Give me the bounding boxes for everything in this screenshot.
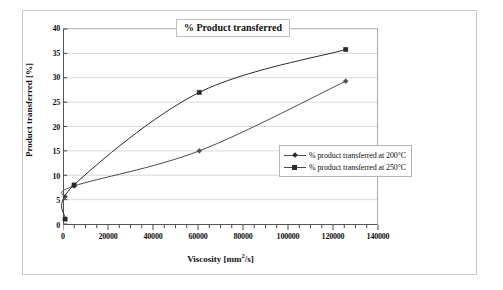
x-tick-label: 0 xyxy=(61,232,65,241)
y-tick-label: 5 xyxy=(56,196,60,205)
y-tick-label: 35 xyxy=(52,48,60,57)
x-tick-label: 60000 xyxy=(188,232,207,241)
x-tick-label: 120000 xyxy=(322,232,345,241)
data-point-marker xyxy=(197,90,201,94)
x-axis-title-base: Viscosity [mm xyxy=(187,254,241,264)
chart-legend: % product transferred at 200°C % product… xyxy=(279,145,412,177)
y-tick-label: 0 xyxy=(56,221,60,230)
x-tick-label: 80000 xyxy=(233,232,252,241)
x-axis-tick-labels: 020000400006000080000100000120000140000 xyxy=(63,232,378,246)
data-point-marker xyxy=(63,217,67,221)
data-point-marker xyxy=(344,47,348,51)
legend-entry-200c[interactable]: % product transferred at 200°C xyxy=(284,149,406,161)
data-point-marker xyxy=(343,79,348,84)
x-axis-title: Viscosity [mm2/s] xyxy=(63,252,378,264)
x-tick-label: 100000 xyxy=(277,232,300,241)
y-tick-label: 20 xyxy=(52,122,60,131)
legend-label-200c: % product transferred at 200°C xyxy=(309,151,406,160)
legend-entry-250c[interactable]: % product transferred at 250°C xyxy=(284,161,406,173)
y-tick-label: 25 xyxy=(52,97,60,106)
series-line-250c xyxy=(62,49,346,219)
data-point-marker xyxy=(72,183,76,187)
y-axis-tick-labels: 0510152025303540 xyxy=(40,28,60,225)
data-series-layer xyxy=(64,29,377,224)
chart-title: % Product transferred xyxy=(176,19,290,37)
y-axis-title: Product transferred [%] xyxy=(24,20,34,200)
y-tick-label: 10 xyxy=(52,171,60,180)
x-tick-label: 140000 xyxy=(367,232,390,241)
legend-marker-diamond-icon xyxy=(284,150,306,160)
plot-area xyxy=(63,28,378,225)
series-line-200c xyxy=(62,81,346,197)
y-tick-label: 15 xyxy=(52,147,60,156)
legend-label-250c: % product transferred at 250°C xyxy=(309,163,406,172)
y-tick-label: 30 xyxy=(52,73,60,82)
data-point-marker xyxy=(197,148,202,153)
y-tick-label: 40 xyxy=(52,24,60,33)
x-axis-ticks xyxy=(63,225,379,232)
chart-figure: Product transferred [%] 0510152025303540… xyxy=(0,0,503,290)
legend-marker-square-icon xyxy=(284,162,306,172)
x-axis-title-tail: /s] xyxy=(245,254,254,264)
x-tick-label: 40000 xyxy=(143,232,162,241)
x-tick-label: 20000 xyxy=(98,232,117,241)
